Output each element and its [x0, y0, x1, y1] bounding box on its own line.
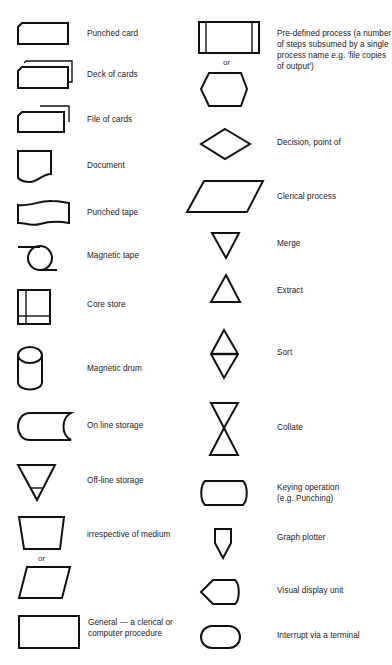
clerical-process-icon	[187, 181, 263, 212]
label-off-line-storage: Off-line storage	[87, 476, 144, 487]
label-magnetic-tape: Magnetic tape	[87, 251, 139, 262]
collate-icon	[210, 403, 238, 455]
label-graph-plotter: Graph plotter	[277, 533, 325, 544]
label-on-line-storage: On line storage	[87, 421, 143, 432]
label-sort: Sort	[277, 348, 292, 359]
flowchart-symbols-canvas	[0, 0, 392, 665]
label-general-line2: computer procedure	[88, 629, 162, 640]
hexagon-predefined-icon	[201, 73, 247, 106]
interrupt-terminal-icon	[201, 626, 240, 648]
document-icon	[18, 151, 51, 182]
general-procedure-icon	[19, 616, 79, 648]
label-predefined-line4: of output')	[277, 62, 314, 73]
label-visual-display-unit: Visual display unit	[277, 586, 343, 597]
label-general-line1: General — a clerical or	[88, 618, 173, 629]
label-predefined-line3: process name e.g. 'file copies	[277, 51, 386, 62]
label-irrespective-of-medium: irrespective of medium	[87, 530, 170, 541]
label-file-of-cards: File of cards	[87, 115, 132, 126]
label-extract: Extract	[277, 286, 303, 297]
or-separator-predefined: or	[223, 58, 230, 67]
keying-operation-icon	[201, 481, 247, 505]
label-decision: Decision, point of	[277, 138, 341, 149]
label-document: Document	[87, 161, 125, 172]
magnetic-tape-icon	[18, 246, 57, 270]
off-line-storage-icon	[18, 465, 55, 500]
label-keying-line1: Keying operation	[277, 483, 339, 494]
on-line-storage-icon	[18, 413, 71, 440]
label-predefined-line2: of steps subsumed by a single	[277, 40, 389, 51]
label-core-store: Core store	[87, 300, 126, 311]
label-clerical-process: Clerical process	[277, 192, 336, 203]
label-interrupt-terminal: Interrupt via a terminal	[277, 631, 360, 642]
label-punched-card: Punched card	[87, 29, 138, 40]
label-deck-of-cards: Deck of cards	[87, 70, 138, 81]
label-collate: Collate	[277, 423, 303, 434]
label-punched-tape: Punched tape	[87, 208, 138, 219]
deck-of-cards-icon	[18, 61, 72, 88]
punched-tape-icon	[18, 201, 69, 225]
label-keying-line2: (e.g. Punching)	[277, 494, 333, 505]
punched-card-icon	[18, 23, 68, 44]
label-predefined-line1: Pre-defined process (a number	[277, 29, 391, 40]
visual-display-unit-icon	[201, 580, 239, 604]
extract-icon	[211, 275, 240, 302]
core-store-icon	[18, 290, 50, 324]
decision-icon	[201, 129, 250, 159]
predefined-process-icon	[199, 22, 259, 53]
parallelogram-io-icon	[19, 567, 70, 598]
label-merge: Merge	[277, 239, 300, 250]
magnetic-drum-icon	[18, 347, 42, 390]
trapezoid-io-icon	[19, 517, 64, 549]
file-of-cards-icon	[18, 106, 69, 132]
merge-icon	[212, 233, 239, 258]
label-magnetic-drum: Magnetic drum	[87, 364, 142, 375]
or-separator-io: or	[38, 554, 45, 563]
graph-plotter-icon	[215, 529, 231, 558]
sort-icon	[211, 330, 238, 378]
